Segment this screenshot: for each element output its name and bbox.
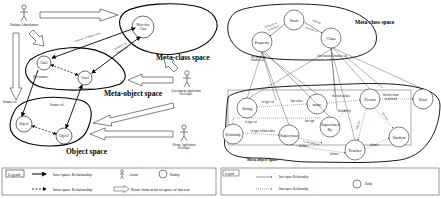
edge-label: is-type-of/has-value <box>251 129 276 133</box>
actor-gad-icon <box>183 71 191 87</box>
meta-class-space-label: Meta-class space <box>156 53 210 62</box>
legend-actor-label: Actor <box>129 172 139 177</box>
node-label: Property <box>255 40 270 45</box>
route-arrow-gad-metaobject <box>128 74 173 86</box>
actor-label: Developer <box>178 146 191 150</box>
edge-label: has-instance/instance of <box>318 54 347 58</box>
edge-label: Instance-of <box>50 103 64 107</box>
right-meta-class-space-region <box>228 4 377 60</box>
node-label: Person <box>364 97 376 102</box>
actor-label: Developer <box>180 92 193 96</box>
actor-pad-icon <box>180 125 188 141</box>
legend-inter-label: Inter-space Relationship <box>53 172 92 177</box>
meta-object-space-label: Meta-object space <box>104 89 163 98</box>
right-legend-intra-label: Intra-space Relationship <box>279 187 309 191</box>
right-meta-object-space-label: Meta-object space <box>247 157 278 162</box>
node-label: Object2 <box>59 134 69 138</box>
node-label: Object1 <box>19 122 29 126</box>
edge-has-instance-2 <box>66 85 82 128</box>
edge-label: Has-instance <box>78 87 94 91</box>
edge-label: has-value <box>291 99 303 103</box>
diagram-canvas: Meta-class Class Class1 Class2 Object1 O… <box>0 0 441 199</box>
edge-label: is-type-of <box>245 120 257 124</box>
edge-label: subclass <box>354 119 361 131</box>
node-label: Class2 <box>81 76 90 80</box>
edge-label: defines <box>330 152 339 156</box>
node-label: Relationship <box>225 133 241 137</box>
edge-instance-of-metaclass-2 <box>92 37 140 73</box>
edge-label: defines <box>299 144 308 148</box>
legend-entity-icon <box>159 170 167 178</box>
actor-dba-icon <box>20 5 28 21</box>
node-label: Teacher <box>348 148 362 153</box>
legend-title: Legend <box>8 172 20 177</box>
edge-label: inherits <box>312 18 323 25</box>
edge-label: Instance-of <box>3 100 17 104</box>
edge-object1-object2 <box>32 126 56 134</box>
node-label: Root <box>290 18 299 23</box>
actor-label: Database Administrator <box>10 23 38 27</box>
edge-class1-class2 <box>51 65 78 75</box>
right-legend-title: Legend <box>225 172 234 176</box>
node-label: Class <box>326 36 335 41</box>
legend-route-label: Route from actor to space of interest <box>131 187 190 192</box>
edge-label: derives <box>381 111 390 121</box>
node-label: Student <box>393 135 407 140</box>
node-label: String <box>242 106 253 111</box>
node-label: Class1 <box>40 61 49 65</box>
edge-label: defines <box>370 143 379 147</box>
edge-label: defined on/has <box>332 94 350 98</box>
node-label: Class <box>140 27 147 31</box>
edge-label: Has-instance <box>33 75 49 79</box>
node-label: Root <box>419 97 428 102</box>
right-legend-box <box>221 168 439 195</box>
edge-label: subclass of <box>305 25 319 33</box>
legend-intra-label: Intra-space Relationship <box>53 187 92 192</box>
edge-label: defined-by <box>338 109 351 113</box>
right-meta-class-space-label: Meta-class space <box>355 19 395 25</box>
node-label: Supervisor <box>280 133 299 138</box>
route-arrow-pad-object <box>90 128 173 140</box>
edge-label: has type <box>305 119 316 123</box>
right-diagram: Root Property Class defined on is define… <box>221 4 440 195</box>
left-diagram: Meta-class Class Class1 Class2 Object1 O… <box>2 4 217 195</box>
route-arrow-dba-object <box>10 33 22 100</box>
route-arrow-dba-metaclass <box>40 9 118 21</box>
right-legend-entity-label: Entity <box>365 182 373 186</box>
route-arrow-dba-metaobject <box>29 30 44 46</box>
edge-label: is-type-of <box>262 100 274 104</box>
edge-label: instance of <box>251 58 264 62</box>
object-space-label: Object space <box>66 147 108 156</box>
legend-entity-label: Entity <box>170 172 180 177</box>
edge-label: is derived <box>385 97 397 101</box>
right-legend-inter-label: Inter-space Relationship <box>279 175 309 179</box>
right-legend-entity-icon <box>353 180 361 188</box>
route-arrow-gad-object <box>93 103 174 126</box>
